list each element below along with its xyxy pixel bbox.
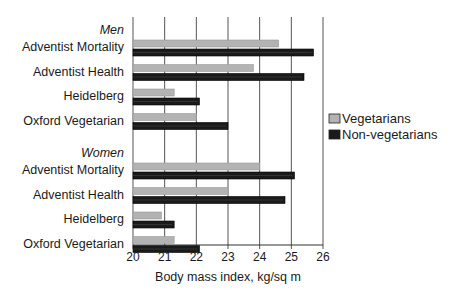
x-tick-label: 23: [221, 250, 235, 264]
x-axis-title: Body mass index, kg/sq m: [155, 270, 301, 284]
category-label: Heidelberg: [64, 89, 125, 103]
bmi-bar-chart: 20212223242526 MenAdventist MortalityAdv…: [0, 0, 457, 299]
bars: [133, 40, 314, 253]
x-tick-label: 20: [126, 250, 140, 264]
category-label: Heidelberg: [64, 212, 125, 226]
category-label: Adventist Mortality: [22, 40, 125, 54]
category-label: Oxford Vegetarian: [23, 114, 124, 128]
category-label: Adventist Health: [33, 188, 124, 202]
legend-swatch-non-vegetarians: [329, 130, 340, 139]
bar-vegetarians-men-2: [133, 89, 174, 96]
bar-vegetarians-men-0: [133, 40, 279, 47]
category-labels: MenAdventist MortalityAdventist HealthHe…: [22, 23, 125, 251]
x-tick-label: 25: [285, 250, 299, 264]
category-label: Oxford Vegetarian: [23, 237, 124, 251]
bar-vegetarians-women-2: [133, 212, 162, 219]
bar-vegetarians-women-1: [133, 188, 228, 195]
x-tick-label: 22: [190, 250, 204, 264]
group-label-men: Men: [100, 23, 124, 37]
bar-vegetarians-men-1: [133, 65, 253, 72]
bar-vegetarians-women-0: [133, 163, 260, 170]
x-tick-label: 26: [316, 250, 330, 264]
category-label: Adventist Mortality: [22, 163, 125, 177]
category-label: Adventist Health: [33, 65, 124, 79]
legend-label-vegetarians: Vegetarians: [342, 111, 411, 126]
bar-vegetarians-women-3: [133, 237, 174, 244]
legend-swatch-vegetarians: [329, 114, 340, 123]
legend-label-non-vegetarians: Non-vegetarians: [342, 127, 438, 142]
group-label-women: Women: [81, 146, 124, 160]
bar-vegetarians-men-3: [133, 114, 196, 121]
legend: VegetariansNon-vegetarians: [329, 111, 438, 142]
x-tick-label: 24: [253, 250, 267, 264]
x-tick-label: 21: [158, 250, 172, 264]
